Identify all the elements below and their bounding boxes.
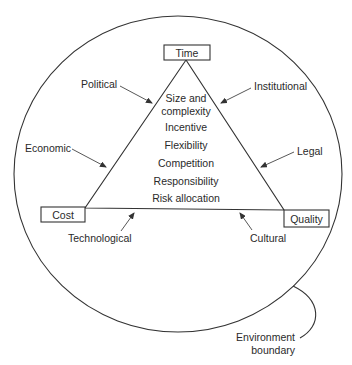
vertex-time-label: Time [176, 47, 199, 59]
vertex-cost-label: Cost [52, 209, 74, 221]
inner-factor: Flexibility [164, 139, 208, 151]
environment-boundary-label: Environment boundary [236, 331, 296, 356]
influence-legal-label: Legal [297, 145, 323, 157]
inner-factor: Responsibility [154, 175, 220, 187]
vertex-cost: Cost [41, 207, 85, 222]
vertex-quality: Quality [284, 210, 329, 227]
arrow-icon [221, 88, 251, 103]
influence-economic-label: Economic [25, 142, 71, 154]
influence-political-label: Political [81, 78, 117, 90]
arrow-icon [121, 213, 134, 231]
influence-institutional-label: Institutional [254, 80, 307, 92]
inner-factor: Competition [158, 157, 214, 169]
influence-institutional: Institutional [221, 80, 307, 103]
boundary-leader-line [293, 286, 316, 338]
arrow-icon [240, 213, 252, 230]
influence-cultural-label: Cultural [250, 232, 286, 244]
boundary-label-line1: Environment [236, 331, 295, 343]
influence-legal: Legal [261, 145, 323, 167]
boundary-label-line2: boundary [251, 344, 296, 356]
inner-factor: complexity [161, 105, 211, 117]
vertex-time: Time [164, 45, 210, 60]
arrow-icon [261, 152, 294, 167]
inner-factor: Size and [166, 92, 207, 104]
inner-factor: Risk allocation [152, 192, 220, 204]
arrow-icon [120, 86, 152, 103]
influence-economic: Economic [25, 142, 106, 167]
inner-factors-list: Size and complexity Incentive Flexibilit… [152, 92, 220, 204]
influence-cultural: Cultural [240, 213, 286, 244]
influence-technological-label: Technological [68, 232, 132, 244]
project-triangle-diagram: Time Cost Quality Size and complexity In… [0, 0, 352, 365]
influence-political: Political [81, 78, 152, 103]
inner-factor: Incentive [165, 121, 207, 133]
vertex-quality-label: Quality [290, 213, 323, 225]
arrow-icon [72, 149, 106, 167]
